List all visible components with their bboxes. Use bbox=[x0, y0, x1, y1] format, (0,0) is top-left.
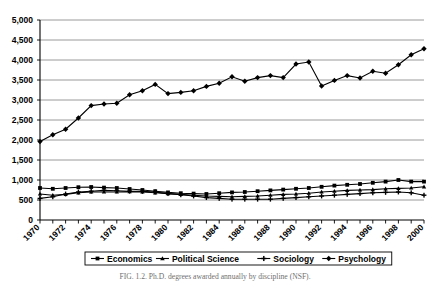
data-point bbox=[370, 69, 375, 74]
legend-label: Political Science bbox=[172, 254, 239, 264]
x-tick-label: 1980 bbox=[149, 222, 170, 243]
x-tick-label: 1990 bbox=[277, 222, 298, 243]
data-point bbox=[358, 191, 363, 196]
series-line bbox=[40, 49, 424, 142]
line-chart-canvas: 05001,0001,5002,0002,5003,0003,5004,0004… bbox=[0, 0, 431, 281]
cross-v bbox=[91, 189, 92, 194]
data-point bbox=[332, 78, 337, 83]
data-point bbox=[422, 193, 427, 198]
cross-v bbox=[308, 194, 309, 199]
y-tick-label: 3,500 bbox=[12, 75, 34, 85]
data-point bbox=[269, 189, 273, 193]
x-tick-label: 1996 bbox=[354, 222, 375, 243]
cross-v bbox=[347, 192, 348, 197]
data-point bbox=[204, 84, 209, 89]
data-point bbox=[345, 183, 349, 187]
data-point bbox=[333, 184, 337, 188]
x-tick-label: 1992 bbox=[303, 222, 324, 243]
data-point bbox=[242, 79, 247, 84]
gridlines-group bbox=[40, 20, 424, 200]
cross-v bbox=[321, 194, 322, 199]
y-tick-label: 5,000 bbox=[12, 15, 34, 25]
cross-v bbox=[193, 194, 194, 199]
data-point bbox=[230, 191, 234, 195]
cross-v bbox=[142, 189, 143, 194]
x-tick-label: 1978 bbox=[123, 222, 144, 243]
x-tick-label: 1986 bbox=[226, 222, 247, 243]
data-point bbox=[243, 190, 247, 194]
chart-figure: 05001,0001,5002,0002,5003,0003,5004,0004… bbox=[0, 0, 431, 281]
data-point bbox=[294, 195, 299, 200]
cross-v bbox=[257, 197, 258, 202]
x-tick-label: 1984 bbox=[200, 222, 221, 243]
y-tick-label: 2,000 bbox=[12, 135, 34, 145]
cross-v bbox=[65, 192, 66, 197]
data-point bbox=[384, 180, 388, 184]
data-point bbox=[409, 190, 414, 195]
cross-v bbox=[334, 193, 335, 198]
cross-v bbox=[103, 188, 104, 193]
x-axis-tick-labels: 1970197219741976197819801982198419861988… bbox=[21, 222, 426, 243]
data-point bbox=[191, 88, 196, 93]
cross-v bbox=[423, 193, 424, 198]
x-tick-label: 1988 bbox=[251, 222, 272, 243]
legend-label: Economics bbox=[107, 254, 153, 264]
x-tick-label: 1972 bbox=[47, 222, 68, 243]
cross-v bbox=[270, 197, 271, 202]
data-point bbox=[64, 186, 68, 190]
data-point bbox=[255, 75, 260, 80]
y-tick-label: 500 bbox=[19, 195, 33, 205]
x-tick-label: 1974 bbox=[72, 222, 93, 243]
cross-v bbox=[180, 192, 181, 197]
data-point bbox=[397, 178, 401, 182]
legend-label: Psychology bbox=[338, 254, 386, 264]
cross-v bbox=[283, 196, 284, 201]
y-tick-label: 1,500 bbox=[12, 155, 34, 165]
data-point bbox=[50, 132, 55, 137]
y-tick-label: 4,000 bbox=[12, 55, 34, 65]
data-point bbox=[268, 73, 273, 78]
y-tick-label: 4,500 bbox=[12, 35, 34, 45]
cross-v bbox=[206, 195, 207, 200]
x-tick-label: 1976 bbox=[98, 222, 119, 243]
data-point bbox=[307, 186, 311, 190]
cross-v bbox=[231, 197, 232, 202]
cross-v bbox=[167, 191, 168, 196]
data-point bbox=[178, 90, 183, 95]
data-point bbox=[319, 194, 324, 199]
cross-v bbox=[263, 256, 264, 261]
data-point bbox=[281, 188, 285, 192]
legend-marker-square bbox=[96, 257, 100, 261]
x-tick-label: 1970 bbox=[21, 222, 42, 243]
y-tick-label: 1,000 bbox=[12, 175, 34, 185]
data-point bbox=[422, 180, 426, 184]
data-point bbox=[345, 73, 350, 78]
x-tick-label: 1982 bbox=[175, 222, 196, 243]
cross-v bbox=[385, 190, 386, 195]
x-tick-label: 2000 bbox=[405, 222, 426, 243]
data-point bbox=[229, 74, 234, 79]
data-point bbox=[294, 187, 298, 191]
data-point bbox=[409, 180, 413, 184]
data-point bbox=[217, 81, 222, 86]
series-psychology bbox=[37, 46, 426, 144]
data-point bbox=[383, 190, 388, 195]
data-point bbox=[371, 181, 375, 185]
data-point bbox=[268, 197, 273, 202]
legend-label: Sociology bbox=[273, 254, 314, 264]
y-tick-label: 2,500 bbox=[12, 115, 34, 125]
data-point bbox=[396, 190, 401, 195]
data-point bbox=[140, 88, 145, 93]
cross-v bbox=[155, 190, 156, 195]
cross-v bbox=[295, 195, 296, 200]
data-point bbox=[319, 83, 324, 88]
data-point bbox=[320, 185, 324, 189]
data-series-group bbox=[37, 46, 426, 202]
data-point bbox=[256, 189, 260, 193]
x-tick-label: 1998 bbox=[379, 222, 400, 243]
cross-v bbox=[411, 190, 412, 195]
x-tick-label: 1994 bbox=[328, 222, 349, 243]
cross-v bbox=[219, 196, 220, 201]
data-point bbox=[51, 187, 55, 191]
data-point bbox=[358, 182, 362, 186]
